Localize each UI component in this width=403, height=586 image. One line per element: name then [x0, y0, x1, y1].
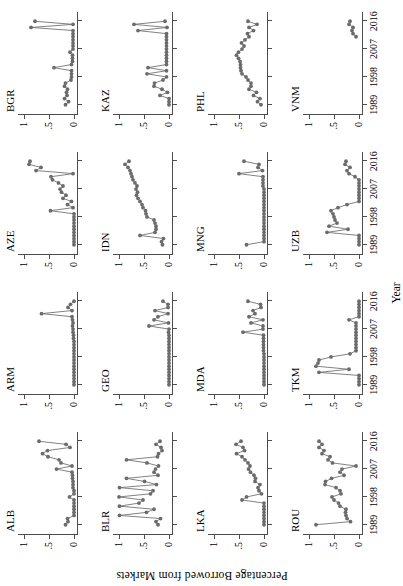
- y-tick: [359, 395, 360, 399]
- x-tick: [268, 328, 272, 329]
- series-line: [327, 161, 359, 244]
- y-tick: [214, 535, 215, 539]
- x-axis-line: [172, 292, 173, 395]
- x-tick: [173, 440, 177, 441]
- data-point: [145, 510, 149, 514]
- y-tick: [264, 255, 265, 259]
- data-point: [345, 203, 349, 207]
- data-point: [246, 32, 250, 36]
- x-tick: [78, 244, 82, 245]
- data-point: [331, 461, 335, 465]
- series-line: [42, 301, 75, 384]
- y-tick: [144, 115, 145, 119]
- x-tick: [173, 300, 177, 301]
- data-point: [149, 492, 153, 496]
- data-point: [70, 200, 74, 204]
- plot-area-geo: 0.51: [113, 292, 172, 394]
- data-point: [71, 22, 75, 26]
- data-point: [243, 458, 247, 462]
- x-tick: [78, 328, 82, 329]
- data-point: [152, 218, 156, 222]
- y-tick-label: .5: [139, 542, 149, 564]
- x-axis-label: Year: [390, 0, 402, 586]
- x-tick-label: 2007: [369, 34, 379, 64]
- data-point: [138, 234, 142, 238]
- panel-title-mng: MNG: [194, 226, 206, 252]
- panel-geo: GEO0.51: [99, 288, 194, 428]
- y-axis-line: [303, 534, 362, 535]
- data-point: [337, 501, 341, 505]
- data-point: [160, 87, 164, 91]
- series-uzb: [303, 152, 362, 254]
- x-tick: [268, 20, 272, 21]
- data-point: [69, 302, 73, 306]
- data-point: [165, 69, 169, 73]
- data-point: [64, 103, 68, 107]
- y-tick-label: .5: [329, 122, 339, 144]
- data-point: [354, 321, 358, 325]
- y-tick: [359, 535, 360, 539]
- y-tick-label: 0: [354, 262, 364, 284]
- y-tick: [264, 535, 265, 539]
- data-point: [242, 159, 246, 163]
- y-tick-label: 1: [114, 542, 124, 564]
- data-point: [330, 476, 334, 480]
- y-tick-label: 1: [209, 402, 219, 424]
- panel-title-idn: IDN: [99, 232, 111, 252]
- panel-title-lka: LKA: [194, 509, 206, 532]
- x-tick: [78, 160, 82, 161]
- x-tick: [268, 104, 272, 105]
- x-tick: [363, 440, 367, 441]
- data-point: [246, 299, 250, 303]
- panel-title-kaz: KAZ: [99, 89, 111, 112]
- data-point: [145, 72, 149, 76]
- data-point: [154, 467, 158, 471]
- data-point: [70, 464, 74, 468]
- panel-title-geo: GEO: [99, 369, 111, 392]
- y-tick: [334, 535, 335, 539]
- y-tick-label: .5: [234, 402, 244, 424]
- data-point: [167, 321, 171, 325]
- data-point: [72, 498, 76, 502]
- y-tick: [169, 115, 170, 119]
- x-tick: [363, 384, 367, 385]
- data-point: [357, 299, 361, 303]
- panel-title-aze: AZE: [4, 231, 16, 252]
- data-point: [167, 97, 171, 101]
- data-point: [34, 169, 38, 173]
- data-point: [66, 517, 70, 521]
- x-axis-line: [77, 432, 78, 535]
- panel-title-vnm: VNM: [289, 86, 301, 112]
- x-tick: [78, 300, 82, 301]
- panel-aze: AZE0.51: [4, 148, 99, 288]
- y-tick: [239, 255, 240, 259]
- data-point: [327, 224, 331, 228]
- plot-area-phl: 0.51: [208, 12, 267, 114]
- y-axis-line: [303, 394, 362, 395]
- series-alb: [18, 432, 77, 534]
- data-point: [118, 514, 122, 518]
- data-point: [245, 495, 249, 499]
- x-axis-line: [172, 432, 173, 535]
- data-point: [46, 455, 50, 459]
- y-tick-label: 1: [114, 122, 124, 144]
- x-tick: [268, 160, 272, 161]
- y-tick: [24, 115, 25, 119]
- plot-area-uzb: 0.511989199820072016: [303, 152, 362, 254]
- data-point: [258, 483, 262, 487]
- data-point: [64, 442, 68, 446]
- x-tick: [173, 496, 177, 497]
- data-point: [64, 523, 68, 527]
- panel-title-blr: BLR: [99, 511, 111, 532]
- x-tick-label: 1989: [369, 230, 379, 260]
- data-point: [67, 100, 71, 104]
- data-point: [37, 439, 41, 443]
- y-tick: [119, 255, 120, 259]
- data-point: [55, 467, 59, 471]
- data-point: [241, 446, 245, 450]
- x-tick: [268, 524, 272, 525]
- data-point: [325, 230, 329, 234]
- data-point: [71, 206, 75, 210]
- x-tick: [363, 76, 367, 77]
- data-point: [126, 166, 130, 170]
